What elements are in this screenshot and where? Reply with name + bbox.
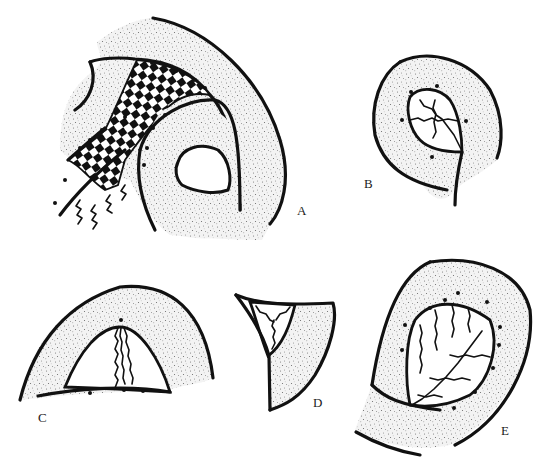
- panel-label-d: D: [313, 395, 322, 411]
- figure-canvas: [0, 0, 551, 461]
- panel-label-e: E: [501, 423, 509, 439]
- panel-c-drawing: [20, 286, 213, 400]
- panel-label-b: B: [364, 176, 373, 192]
- panel-a-drawing: [53, 18, 286, 240]
- panel-b-drawing: [372, 56, 501, 205]
- panel-d-drawing: [236, 295, 334, 410]
- panel-label-a: A: [297, 203, 306, 219]
- panel-label-c: C: [38, 410, 47, 426]
